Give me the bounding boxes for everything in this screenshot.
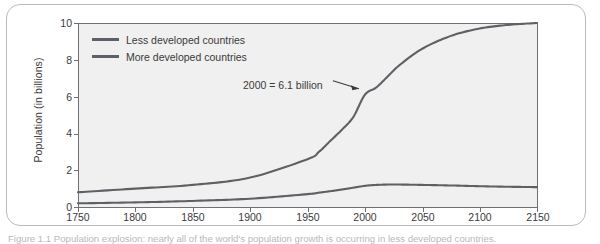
y-tick-mark <box>74 97 78 98</box>
chart-legend: Less developed countries More developed … <box>92 31 247 65</box>
y-tick-mark <box>74 60 78 61</box>
legend-item-less-developed: Less developed countries <box>92 31 247 48</box>
annotation-2000-population: 2000 = 6.1 billion <box>243 79 323 91</box>
legend-line-icon <box>92 55 119 58</box>
x-tick-label-1850: 1850 <box>167 211 219 223</box>
y-tick-label-6: 6 <box>42 91 72 103</box>
x-tick-mark <box>135 208 136 212</box>
x-tick-mark <box>480 208 481 212</box>
legend-label: Less developed countries <box>126 34 245 46</box>
x-tick-mark <box>193 208 194 212</box>
y-tick-label-10: 10 <box>42 17 72 29</box>
y-tick-mark <box>74 23 78 24</box>
x-tick-mark <box>78 208 79 212</box>
legend-line-icon <box>92 38 119 41</box>
figure-caption: Figure 1.1 Population explosion: nearly … <box>8 233 598 244</box>
x-tick-label-1750: 1750 <box>52 211 104 223</box>
x-tick-label-1900: 1900 <box>224 211 276 223</box>
y-tick-label-2: 2 <box>42 164 72 176</box>
figure-container: Population (in billions) 10 8 6 4 2 0 17… <box>0 0 600 244</box>
x-tick-label-1950: 1950 <box>282 211 334 223</box>
x-tick-mark <box>365 208 366 212</box>
x-tick-label-2050: 2050 <box>397 211 449 223</box>
x-tick-label-2000: 2000 <box>339 211 391 223</box>
x-tick-label-2100: 2100 <box>454 211 506 223</box>
x-tick-mark <box>308 208 309 212</box>
y-tick-mark <box>74 134 78 135</box>
y-tick-label-8: 8 <box>42 54 72 66</box>
x-tick-mark <box>250 208 251 212</box>
plot-border-top <box>78 23 538 24</box>
y-tick-mark <box>74 170 78 171</box>
plot-border-right <box>537 23 538 208</box>
legend-item-more-developed: More developed countries <box>92 48 247 65</box>
x-tick-mark <box>537 208 538 212</box>
y-axis-line <box>78 23 79 208</box>
x-tick-label-1800: 1800 <box>109 211 161 223</box>
x-tick-mark <box>423 208 424 212</box>
x-tick-label-2150: 2150 <box>512 211 564 223</box>
y-tick-label-4: 4 <box>42 127 72 139</box>
legend-label: More developed countries <box>126 51 247 63</box>
